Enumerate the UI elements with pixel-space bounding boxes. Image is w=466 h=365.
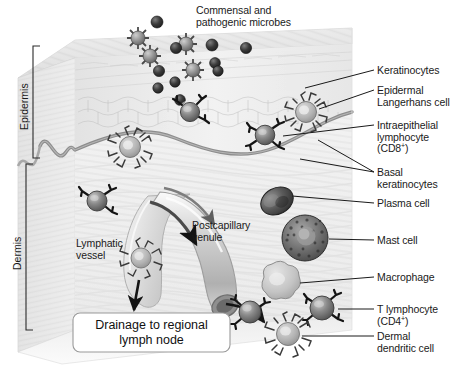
label-t-lymphocyte-cd4: T lymphocyte(CD4+): [377, 304, 438, 327]
label-mast-cell: Mast cell: [377, 235, 418, 247]
dermis-label: Dermis: [11, 237, 23, 270]
mast-cell: [282, 215, 328, 261]
label-basal-keratinocytes: Basalkeratinocytes: [377, 167, 438, 190]
label-intraepithelial-lymphocyte: Intraepitheliallymphocyte(CD8+): [377, 120, 438, 155]
label-dermal-dendritic-cell: Dermaldendritic cell: [377, 331, 434, 354]
label-macrophage: Macrophage: [377, 272, 434, 284]
drainage-callout-text: Drainage to regionallymph node: [73, 318, 230, 348]
microbes-title: Commensal and pathogenic microbes: [196, 5, 291, 28]
label-plasma-cell: Plasma cell: [377, 198, 430, 210]
label-keratinocytes: Keratinocytes: [377, 65, 439, 77]
label-epidermal-langerhans-cell: EpidermalLangerhans cell: [377, 85, 450, 108]
figure-root: Commensal and pathogenic microbes Epider…: [0, 0, 466, 365]
postcapillary-venule-label: Postcapillaryvenule: [192, 220, 250, 243]
epidermis-label: Epidermis: [18, 83, 30, 130]
lymphatic-vessel-label: Lymphaticvessel: [76, 238, 123, 261]
